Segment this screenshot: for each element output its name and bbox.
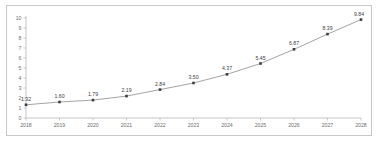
x-tick-label: 2018: [20, 122, 32, 128]
data-point-label: 2.19: [121, 87, 131, 93]
x-tick-label: 2028: [355, 122, 367, 128]
series-line: [26, 20, 361, 105]
y-tick-label: 7: [19, 45, 22, 51]
data-point-label: 2.84: [155, 81, 165, 87]
data-point-marker: [58, 101, 61, 104]
y-tick-label: 9: [19, 25, 22, 31]
chart-figure: 0123456789102018201920202021202220232024…: [0, 0, 379, 143]
data-point-label: 1.60: [54, 93, 64, 99]
x-tick-label: 2025: [255, 122, 267, 128]
x-tick-label: 2021: [121, 122, 133, 128]
data-point-marker: [125, 95, 128, 98]
x-tick-label: 2019: [54, 122, 66, 128]
x-tick-label: 2020: [87, 122, 99, 128]
x-tick-label: 2023: [188, 122, 200, 128]
y-tick-label: 3: [19, 85, 22, 91]
x-tick-label: 2022: [154, 122, 166, 128]
data-point-marker: [326, 33, 329, 36]
y-tick-label: 4: [19, 75, 22, 81]
data-point-marker: [293, 48, 296, 51]
data-point-label: 3.50: [188, 74, 198, 80]
data-point-marker: [192, 82, 195, 85]
x-tick-label: 2024: [221, 122, 233, 128]
data-point-marker: [226, 73, 229, 76]
x-tick-label: 2027: [322, 122, 334, 128]
data-point-label: 1.79: [88, 91, 98, 97]
y-tick-label: 8: [19, 35, 22, 41]
data-point-label: 1.32: [21, 96, 31, 102]
data-point-marker: [92, 99, 95, 102]
x-tick-label: 2026: [288, 122, 300, 128]
data-point-label: 4.37: [222, 65, 232, 71]
y-tick-label: 10: [16, 15, 22, 21]
data-point-label: 6.87: [289, 40, 299, 46]
data-point-label: 8.39: [322, 25, 332, 31]
data-point-marker: [25, 104, 28, 107]
y-tick-label: 6: [19, 55, 22, 61]
data-point-label: 9.84: [354, 11, 364, 17]
data-point-marker: [159, 88, 162, 91]
data-point-marker: [259, 62, 262, 65]
line-chart-svg: 0123456789102018201920202021202220232024…: [0, 0, 379, 143]
y-tick-label: 0: [19, 115, 22, 121]
y-tick-label: 1: [19, 105, 22, 111]
plot-area: 0123456789102018201920202021202220232024…: [0, 0, 379, 143]
data-point-marker: [360, 18, 363, 21]
data-point-label: 5.45: [255, 55, 265, 61]
y-tick-label: 5: [19, 65, 22, 71]
